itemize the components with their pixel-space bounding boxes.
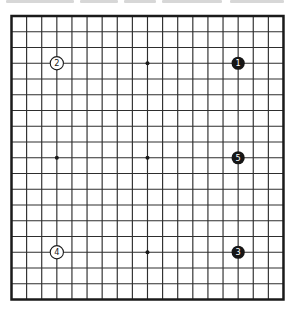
- cropped-print-artifact: [80, 0, 118, 3]
- stone-number-1: 1: [236, 58, 241, 68]
- star-point: [145, 156, 149, 160]
- cropped-print-artifact: [6, 0, 74, 3]
- go-diagram-page: 12345: [0, 0, 292, 315]
- go-board: 12345: [0, 0, 292, 315]
- star-point: [145, 61, 149, 65]
- stone-number-2: 2: [54, 58, 59, 68]
- cropped-print-artifact: [124, 0, 156, 3]
- stone-number-4: 4: [54, 247, 59, 257]
- star-point: [145, 250, 149, 254]
- stone-number-3: 3: [236, 247, 241, 257]
- star-point: [55, 156, 59, 160]
- stone-number-5: 5: [236, 153, 241, 163]
- cropped-print-artifact: [230, 0, 284, 3]
- cropped-print-artifact: [162, 0, 222, 3]
